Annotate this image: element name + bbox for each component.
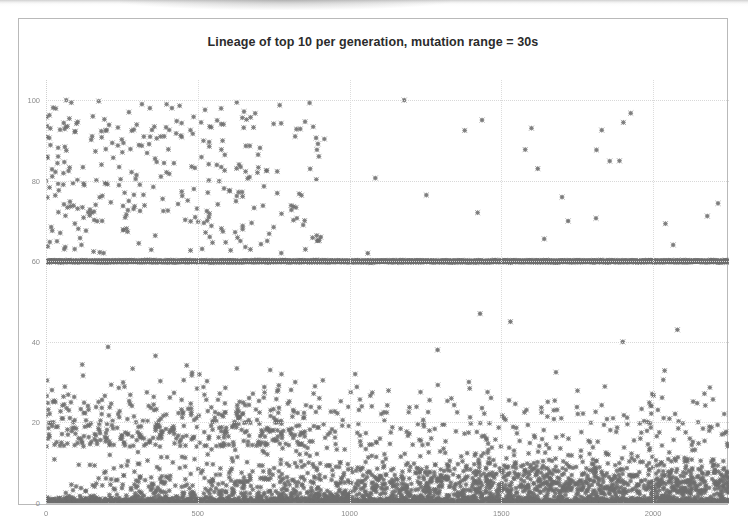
gridline-y-80 — [46, 181, 729, 182]
y-axis-tick-label: 40 — [32, 337, 40, 346]
y-axis-tick-label: 80 — [32, 176, 40, 185]
gridline-x-2000 — [653, 80, 654, 503]
scan-artifact-smudge — [120, 0, 450, 10]
gridline-x-500 — [198, 80, 199, 503]
y-axis-tick-label: 60 — [32, 257, 40, 266]
gridline-y-60 — [46, 261, 729, 262]
y-axis-tick-label: 0 — [36, 499, 40, 508]
gridline-y-40 — [46, 342, 729, 343]
gridline-y-20 — [46, 422, 729, 423]
chart-frame: Lineage of top 10 per generation, mutati… — [18, 18, 728, 505]
x-axis-tick-label: 1000 — [341, 509, 358, 518]
x-axis-tick-label: 500 — [192, 509, 205, 518]
scatter-plot-canvas — [46, 80, 729, 503]
y-axis-tick-label: 100 — [27, 96, 40, 105]
x-axis-tick-label: 2000 — [645, 509, 662, 518]
y-axis-tick-label: 20 — [32, 418, 40, 427]
gridline-y-100 — [46, 100, 729, 101]
plot-area: 0204060801000500100015002000 — [46, 80, 729, 503]
chart-title: Lineage of top 10 per generation, mutati… — [19, 35, 727, 49]
x-axis-tick-label: 0 — [44, 509, 48, 518]
gridline-x-0 — [46, 80, 47, 503]
gridline-x-1500 — [501, 80, 502, 503]
x-axis-tick-label: 1500 — [493, 509, 510, 518]
gridline-y-0 — [46, 503, 729, 504]
gridline-x-1000 — [350, 80, 351, 503]
